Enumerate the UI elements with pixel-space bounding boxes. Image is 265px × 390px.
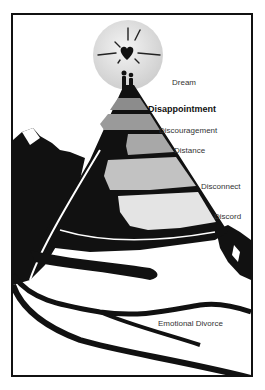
stage-label-dream: Dream <box>172 78 196 87</box>
stage-label-discouragement: Discouragement <box>159 126 217 135</box>
mountain-illustration <box>0 0 265 390</box>
stage-label-disappointment: Disappointment <box>148 104 216 114</box>
stage-label-emotional-divorce: Emotional Divorce <box>158 319 223 328</box>
layer-discouragement <box>100 114 160 130</box>
road-upper <box>13 275 251 314</box>
stage-label-disconnect: Disconnect <box>201 182 241 191</box>
stage-label-discord: Discord <box>214 212 241 221</box>
stage-label-distance: Distance <box>174 146 205 155</box>
layer-discord <box>118 192 216 230</box>
